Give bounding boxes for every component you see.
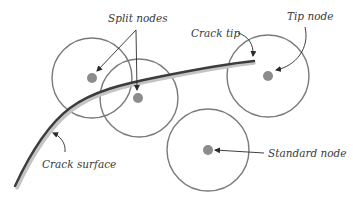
tip-node-label: Tip node <box>287 10 333 22</box>
crack-tip-arrow <box>238 33 253 56</box>
xfem-enrichment-diagram: Split nodes Crack tip Tip node Crack sur… <box>0 0 353 202</box>
diagram-svg: Split nodes Crack tip Tip node Crack sur… <box>0 0 353 202</box>
labels: Split nodes Crack tip Tip node Crack sur… <box>42 10 347 170</box>
crack-surface-label: Crack surface <box>42 158 116 170</box>
standard-node-label: Standard node <box>268 147 347 159</box>
crack-surface-arrow <box>53 133 65 152</box>
split-nodes-label: Split nodes <box>108 12 168 24</box>
tip-node-arrow <box>276 27 306 70</box>
split-node-2 <box>133 93 143 103</box>
split-node-1 <box>87 73 97 83</box>
standard-node <box>203 145 213 155</box>
standard-node-arrow <box>215 150 264 153</box>
nodes <box>87 71 273 155</box>
crack-tip-label: Crack tip <box>191 27 240 39</box>
annotation-arrows <box>53 27 306 153</box>
tip-node <box>263 71 273 81</box>
